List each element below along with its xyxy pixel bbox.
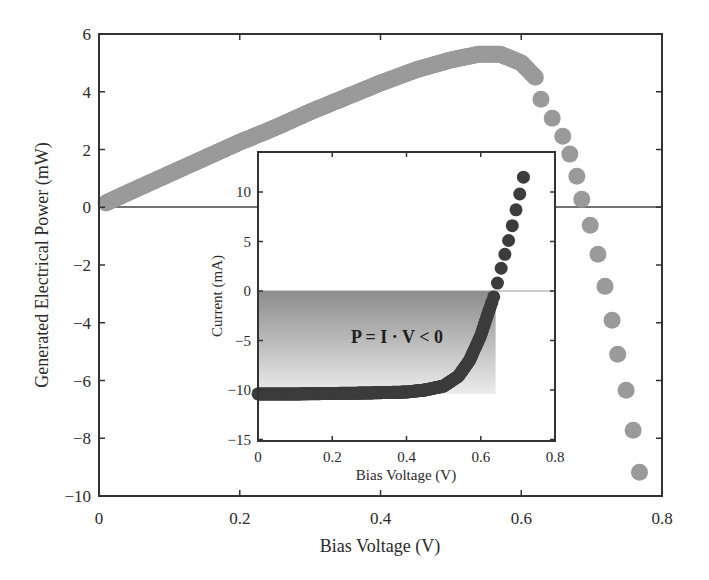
data-point bbox=[554, 128, 571, 145]
y-tick-label: −8 bbox=[73, 429, 91, 448]
x-tick-label: 0 bbox=[95, 509, 104, 528]
x-tick-label: 0.6 bbox=[511, 509, 532, 528]
inset-y-tick-label: 5 bbox=[244, 234, 252, 250]
chart-figure: 00.20.40.60.8 6420−2−4−6−8−10 Bias Volta… bbox=[0, 0, 709, 580]
x-tick-label: 0.2 bbox=[229, 509, 250, 528]
y-tick-label: 4 bbox=[83, 83, 92, 102]
data-point bbox=[491, 277, 504, 290]
y-tick-label: 2 bbox=[83, 141, 92, 160]
data-point bbox=[498, 248, 511, 261]
inset-y-tick-label: −10 bbox=[228, 382, 251, 398]
y-tick-label: 6 bbox=[83, 25, 92, 44]
data-point bbox=[513, 187, 526, 200]
inset-y-tick-label: 0 bbox=[244, 283, 252, 299]
data-point bbox=[604, 312, 621, 329]
power-sign-annotation: P = I · V < 0 bbox=[351, 327, 443, 347]
data-point bbox=[625, 422, 642, 439]
data-point bbox=[517, 171, 530, 184]
inset-x-tick-label: 0 bbox=[254, 449, 262, 465]
inset-x-axis-label: Bias Voltage (V) bbox=[356, 467, 456, 484]
data-point bbox=[573, 191, 590, 208]
inset-x-tick-label: 0.4 bbox=[397, 449, 416, 465]
inset-y-axis-label: Current (mA) bbox=[209, 255, 226, 337]
x-tick-label: 0.4 bbox=[370, 509, 392, 528]
data-point bbox=[582, 217, 599, 234]
data-point bbox=[596, 278, 613, 295]
data-point bbox=[527, 69, 544, 86]
data-point bbox=[506, 219, 519, 232]
main-x-axis-label: Bias Voltage (V) bbox=[320, 536, 440, 557]
data-point bbox=[568, 168, 585, 185]
data-point bbox=[532, 91, 549, 108]
inset-y-tick-label: −15 bbox=[228, 432, 251, 448]
y-tick-label: 0 bbox=[83, 198, 92, 217]
data-point bbox=[631, 464, 648, 481]
x-tick-label: 0.8 bbox=[651, 509, 672, 528]
inset-x-tick-label: 0.6 bbox=[471, 449, 490, 465]
data-point bbox=[495, 262, 508, 275]
data-point bbox=[502, 234, 515, 247]
main-x-tick-labels: 00.20.40.60.8 bbox=[95, 509, 673, 528]
y-tick-label: −4 bbox=[73, 314, 92, 333]
y-tick-label: −2 bbox=[73, 256, 91, 275]
data-point bbox=[544, 110, 561, 127]
inset-y-tick-label: −5 bbox=[235, 333, 251, 349]
y-tick-label: −10 bbox=[64, 487, 91, 506]
data-point bbox=[487, 290, 500, 303]
inset-y-tick-label: 10 bbox=[236, 184, 251, 200]
main-y-axis-label: Generated Electrical Power (mW) bbox=[32, 142, 53, 387]
data-point bbox=[618, 382, 635, 399]
inset-x-tick-label: 0.2 bbox=[323, 449, 342, 465]
data-point bbox=[589, 246, 606, 263]
data-point bbox=[609, 346, 626, 363]
data-point bbox=[510, 203, 523, 216]
y-tick-label: −6 bbox=[73, 372, 91, 391]
inset-plot: P = I · V < 0 00.20.40.60.8 1050−5−10−15… bbox=[209, 152, 564, 484]
inset-x-tick-label: 0.8 bbox=[546, 449, 565, 465]
main-y-tick-labels: 6420−2−4−6−8−10 bbox=[64, 25, 91, 506]
data-point bbox=[561, 146, 578, 163]
